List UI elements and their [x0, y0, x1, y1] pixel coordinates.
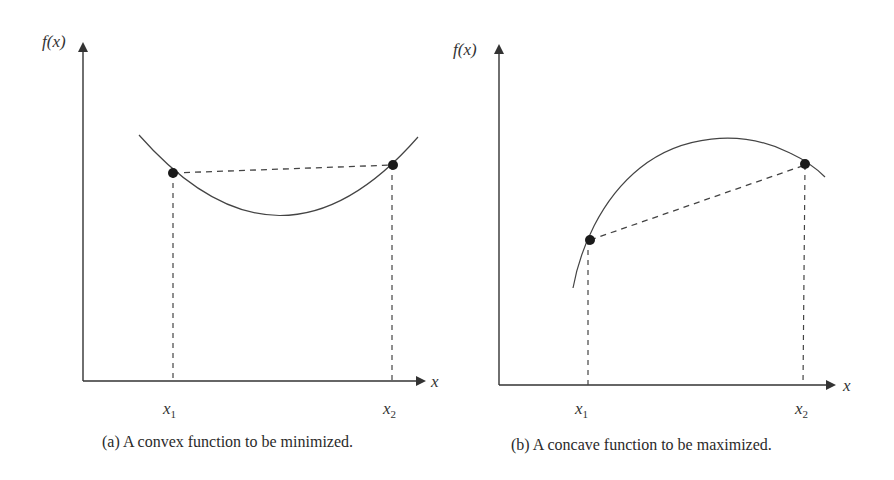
tick-label-x1: x1 [162, 399, 176, 420]
tick-label-x1: x1 [574, 399, 588, 420]
tick-label-x2: x2 [382, 399, 396, 420]
caption-b: (b) A concave function to be maximized. [511, 436, 772, 454]
drop-line-x2 [803, 165, 805, 385]
concave-curve [573, 138, 825, 288]
x-axis-label: x [430, 372, 439, 391]
caption-a: (a) A convex function to be minimized. [102, 433, 353, 451]
convex-curve [139, 135, 418, 216]
y-axis-label: f(x) [453, 40, 477, 59]
tick-label-x2: x2 [794, 399, 808, 420]
secant-line [173, 165, 393, 173]
point-x2 [800, 159, 810, 169]
x-axis-label: x [842, 376, 851, 395]
point-x2 [388, 160, 398, 170]
y-axis-label: f(x) [42, 32, 66, 51]
panel-convex: f(x) x x1 x2 (a) A convex function to be… [42, 32, 439, 451]
panel-concave: f(x) x x1 x2 (b) A concave function to b… [453, 40, 851, 454]
point-x1 [585, 235, 595, 245]
secant-line [590, 165, 805, 240]
point-x1 [168, 168, 178, 178]
figure: f(x) x x1 x2 (a) A convex function to be… [0, 0, 894, 480]
